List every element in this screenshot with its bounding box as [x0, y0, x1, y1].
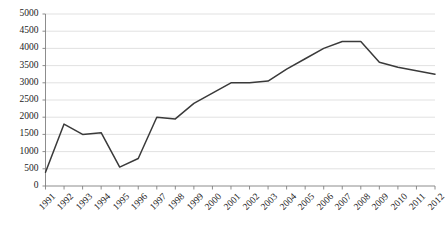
data-series-line: [46, 42, 436, 173]
series-polyline: [46, 42, 436, 173]
x-axis-ticks: [46, 186, 436, 190]
gridlines: [46, 14, 436, 169]
chart-canvas: [0, 0, 445, 235]
line-chart: 0500100015002000250030003500400045005000…: [0, 0, 445, 235]
